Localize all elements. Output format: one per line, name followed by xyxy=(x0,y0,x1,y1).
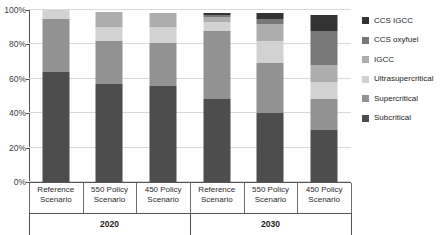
x-axis-group-label: 2020 xyxy=(29,213,190,235)
x-axis-category-label-line: Reference xyxy=(37,185,74,195)
bar-segment-supercritical[interactable] xyxy=(257,63,284,113)
bar-segment-igcc[interactable] xyxy=(203,17,230,22)
bar-stack[interactable] xyxy=(203,10,230,182)
bar-segment-ccs-igcc[interactable] xyxy=(257,13,284,18)
y-axis-tick-mark xyxy=(26,113,29,114)
bar-segment-ultrasupercritical[interactable] xyxy=(42,10,69,19)
plot-area xyxy=(29,10,351,182)
x-axis-category-label-line: Scenario xyxy=(94,195,126,205)
legend-swatch-icon xyxy=(362,37,369,44)
bar-segment-ultrasupercritical[interactable] xyxy=(203,22,230,31)
stacked-bar-chart: 0%20%40%60%80%100% ReferenceScenario550 … xyxy=(0,0,445,235)
legend-item[interactable]: Supercritical xyxy=(362,89,442,109)
bar-segment-subcritical[interactable] xyxy=(203,99,230,182)
x-axis-category-label: 550 PolicyScenario xyxy=(244,183,298,213)
legend-swatch-icon xyxy=(362,95,369,102)
x-axis-group-label: 2030 xyxy=(190,213,351,235)
x-axis-category-label-line: 550 Policy xyxy=(252,185,289,195)
bar-stack[interactable] xyxy=(96,10,123,182)
legend-label: Ultrasupercritical xyxy=(374,75,434,83)
bar-slot xyxy=(297,10,351,182)
bar-segment-supercritical[interactable] xyxy=(203,31,230,100)
legend-label: CCS oxyfuel xyxy=(374,36,418,44)
legend-item[interactable]: CCS IGCC xyxy=(362,11,442,31)
y-axis-tick-mark xyxy=(26,79,29,80)
bar-segment-ultrasupercritical[interactable] xyxy=(257,41,284,63)
bar-stack[interactable] xyxy=(311,10,338,182)
bar-segment-igcc[interactable] xyxy=(311,65,338,82)
y-axis-tick-mark xyxy=(26,44,29,45)
bar-slot xyxy=(136,10,190,182)
bar-segment-supercritical[interactable] xyxy=(311,99,338,130)
bar-segment-subcritical[interactable] xyxy=(257,113,284,182)
category-separator xyxy=(83,183,84,213)
legend-item[interactable]: Ultrasupercritical xyxy=(362,70,442,90)
bar-segment-ccs-oxyfuel[interactable] xyxy=(311,31,338,65)
legend-swatch-icon xyxy=(362,56,369,63)
x-axis-category-label: ReferenceScenario xyxy=(190,183,244,213)
legend-swatch-icon xyxy=(362,115,369,122)
legend-label: IGCC xyxy=(374,56,394,64)
bar-stack[interactable] xyxy=(257,10,284,182)
bar-stack[interactable] xyxy=(42,10,69,182)
group-edge-line xyxy=(351,213,352,235)
bar-segment-igcc[interactable] xyxy=(96,12,123,27)
bar-slot xyxy=(190,10,244,182)
bar-segment-subcritical[interactable] xyxy=(150,86,177,182)
legend-item[interactable]: Subcritical xyxy=(362,109,442,129)
x-axis-category-label-line: 450 Policy xyxy=(145,185,182,195)
x-axis-category-label: 550 PolicyScenario xyxy=(83,183,137,213)
x-axis-category-label-line: Scenario xyxy=(40,195,72,205)
legend-label: Subcritical xyxy=(374,114,411,122)
bar-segment-igcc[interactable] xyxy=(150,13,177,27)
bar-segment-ccs-igcc[interactable] xyxy=(311,15,338,30)
x-axis-category-label-line: Scenario xyxy=(255,195,287,205)
bar-segment-supercritical[interactable] xyxy=(96,41,123,84)
legend-label: Supercritical xyxy=(374,95,418,103)
bar-segment-subcritical[interactable] xyxy=(96,84,123,182)
x-axis-category-label: ReferenceScenario xyxy=(29,183,83,213)
bar-segment-ultrasupercritical[interactable] xyxy=(96,27,123,41)
bar-segment-ultrasupercritical[interactable] xyxy=(311,82,338,99)
chart-legend: CCS IGCCCCS oxyfuelIGCCUltrasupercritica… xyxy=(362,11,442,128)
x-axis-category-label-line: Scenario xyxy=(308,195,340,205)
x-axis-group-label-text: 2030 xyxy=(261,220,280,229)
group-edge-line xyxy=(29,213,30,235)
x-axis-category-label-line: 450 Policy xyxy=(306,185,343,195)
bar-segment-subcritical[interactable] xyxy=(42,72,69,182)
bar-segment-ultrasupercritical[interactable] xyxy=(150,27,177,42)
y-axis-tick-mark xyxy=(26,148,29,149)
group-edge-line xyxy=(190,213,191,235)
bar-slot xyxy=(83,10,137,182)
category-edge-line xyxy=(29,183,30,213)
x-axis-category-label-line: Reference xyxy=(198,185,235,195)
x-axis-category-label-line: Scenario xyxy=(147,195,179,205)
bars-layer xyxy=(29,10,351,182)
bar-segment-subcritical[interactable] xyxy=(311,130,338,182)
bar-segment-ccs-igcc[interactable] xyxy=(203,13,230,15)
y-axis-tick-mark xyxy=(26,10,29,11)
legend-item[interactable]: IGCC xyxy=(362,50,442,70)
legend-swatch-icon xyxy=(362,17,369,24)
bar-segment-ccs-oxyfuel[interactable] xyxy=(203,15,230,17)
x-axis-category-label: 450 PolicyScenario xyxy=(136,183,190,213)
legend-item[interactable]: CCS oxyfuel xyxy=(362,31,442,51)
x-axis-group-label-text: 2020 xyxy=(100,220,119,229)
legend-label: CCS IGCC xyxy=(374,17,413,25)
bar-segment-supercritical[interactable] xyxy=(42,19,69,72)
category-separator xyxy=(136,183,137,213)
category-separator xyxy=(297,183,298,213)
category-edge-line xyxy=(351,183,352,213)
x-axis-category-label: 450 PolicyScenario xyxy=(297,183,351,213)
x-axis-category-label-line: Scenario xyxy=(201,195,233,205)
legend-swatch-icon xyxy=(362,76,369,83)
bar-slot xyxy=(244,10,298,182)
category-separator xyxy=(190,183,191,213)
bar-segment-supercritical[interactable] xyxy=(150,43,177,86)
bar-slot xyxy=(29,10,83,182)
bar-stack[interactable] xyxy=(150,10,177,182)
category-separator xyxy=(244,183,245,213)
bar-segment-ccs-oxyfuel[interactable] xyxy=(257,19,284,24)
bar-segment-igcc[interactable] xyxy=(257,24,284,41)
x-axis-category-label-line: 550 Policy xyxy=(91,185,128,195)
